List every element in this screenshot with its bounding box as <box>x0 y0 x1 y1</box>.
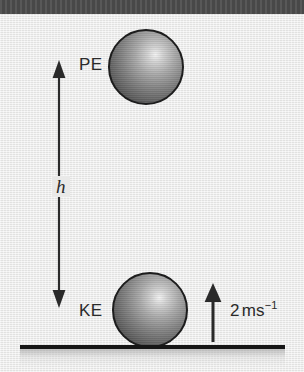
label-potential-energy: PE <box>79 56 102 73</box>
label-kinetic-energy: KE <box>79 302 102 319</box>
ground-shadow <box>20 349 285 367</box>
label-speed: 2ms−1 <box>230 300 277 319</box>
speed-value: 2 <box>230 301 240 320</box>
ball-top <box>108 29 184 105</box>
energy-diagram-figure: PE KE h 2ms−1 <box>0 0 304 372</box>
ball-bottom <box>112 272 188 348</box>
speed-exponent: −1 <box>265 299 278 311</box>
speed-unit: ms <box>242 301 265 320</box>
velocity-arrow <box>200 282 226 344</box>
ball-bottom-texture <box>114 274 186 346</box>
label-height: h <box>52 176 70 197</box>
ball-top-texture <box>110 31 182 103</box>
top-border-bar <box>0 0 304 14</box>
